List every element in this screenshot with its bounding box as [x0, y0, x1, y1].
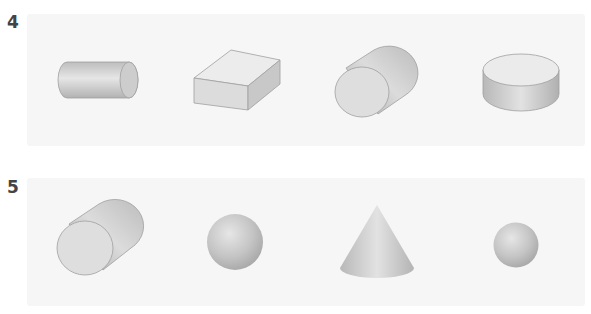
sphere-small-icon	[493, 222, 541, 270]
cone-icon	[338, 204, 416, 284]
sphere-small-shape	[493, 222, 541, 270]
question-number-4: 4	[7, 12, 19, 32]
shapes-panel-5	[27, 178, 585, 306]
cylinder-horizontal-icon	[57, 60, 139, 100]
question-number-5: 5	[7, 177, 19, 197]
cylinder-short-shape	[481, 52, 561, 114]
cylinder-short-icon	[481, 52, 561, 114]
cone-shape	[338, 204, 416, 284]
sphere-large-icon	[206, 214, 266, 274]
sphere-large-shape	[206, 214, 266, 274]
cylinder-tilted-shape	[334, 44, 418, 120]
cylinder-tilted-icon	[334, 44, 418, 120]
rectangular-prism-shape	[193, 48, 283, 112]
cylinder-tilted-shape	[55, 198, 139, 276]
rectangular-prism-icon	[193, 48, 283, 112]
cylinder-tilted-icon	[55, 198, 139, 276]
shapes-panel-4	[27, 14, 585, 146]
cylinder-horizontal-shape	[57, 60, 139, 100]
